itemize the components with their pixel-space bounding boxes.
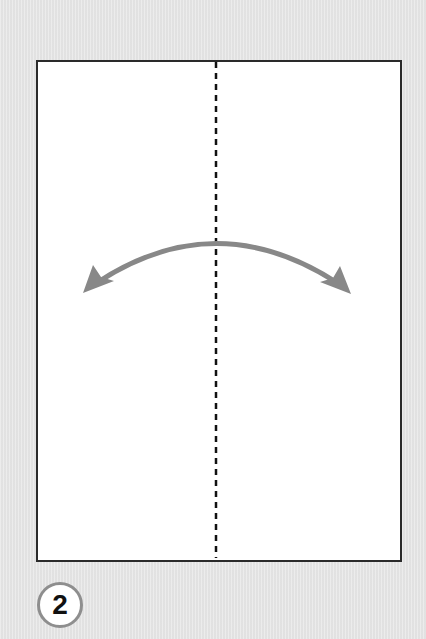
arrow-head-left-icon xyxy=(83,265,114,293)
step-number: 2 xyxy=(52,591,68,619)
arrow-head-right-icon xyxy=(320,266,351,294)
fold-diagram xyxy=(0,0,426,639)
step-number-badge: 2 xyxy=(37,582,83,628)
